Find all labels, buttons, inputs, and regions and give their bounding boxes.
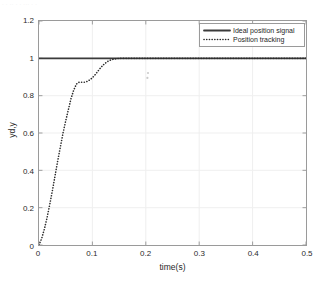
y-tick-label: 0.4 xyxy=(4,166,34,175)
x-tick-label: 0.5 xyxy=(290,249,317,258)
y-tick-label: 0.8 xyxy=(4,91,34,100)
x-tick-label: 0.4 xyxy=(236,249,270,258)
x-tick-label: 0 xyxy=(21,249,55,258)
y-axis-tick-labels: 00.20.40.60.811.2 xyxy=(0,20,34,246)
top-artifact-text: · · ·· · · ··· · · xyxy=(2,1,37,7)
legend-label: Position tracking xyxy=(231,35,284,44)
legend[interactable]: Ideal position signalPosition tracking xyxy=(199,23,305,47)
y-tick-label: 1.2 xyxy=(4,16,34,25)
legend-item-0[interactable]: Ideal position signal xyxy=(203,26,301,35)
plot-area xyxy=(38,20,307,246)
stray-marker xyxy=(146,77,148,79)
annotation-layer xyxy=(146,77,148,79)
legend-line-swatch xyxy=(203,35,231,44)
y-tick-label: 0.2 xyxy=(4,204,34,213)
x-axis-title: time(s) xyxy=(38,262,307,272)
x-axis-tick-labels: 00.10.20.30.40.5 xyxy=(38,249,307,261)
y-axis-title: yd,y xyxy=(7,100,17,160)
legend-item-1[interactable]: Position tracking xyxy=(203,35,301,44)
x-tick-label: 0.2 xyxy=(129,249,163,258)
x-tick-label: 0.3 xyxy=(182,249,216,258)
y-tick-label: 1 xyxy=(4,53,34,62)
series-line-1 xyxy=(39,58,306,245)
figure-canvas: · · ·· · · ··· · · 00.20.40.60.811.2 00.… xyxy=(0,0,317,285)
data-series-layer xyxy=(39,58,306,245)
legend-label: Ideal position signal xyxy=(231,26,295,35)
gridlines xyxy=(39,21,306,245)
stray-marker-dot xyxy=(147,72,149,74)
legend-line-swatch xyxy=(203,26,231,35)
plot-svg xyxy=(39,21,306,245)
x-tick-label: 0.1 xyxy=(75,249,109,258)
